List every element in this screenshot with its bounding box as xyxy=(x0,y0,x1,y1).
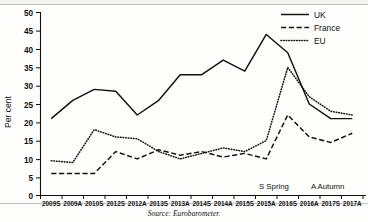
x-tick-label: 2010S xyxy=(85,200,104,207)
y-tick-label: 5 xyxy=(28,174,33,183)
x-tick-label: 2015S xyxy=(236,200,255,207)
line-chart-svg: Per cent 50 45 40 35 30 25 20 15 xyxy=(0,0,368,222)
data-series-group xyxy=(51,34,352,173)
x-tick-label: 2015A xyxy=(257,200,276,207)
x-axis-tick-labels: 2009S2009A2010S2012S2012A2013S2013A2014S… xyxy=(42,200,362,207)
x-tick-label: 2013A xyxy=(171,200,190,207)
x-tick-label: 2012A xyxy=(128,200,147,207)
legend-label-uk: UK xyxy=(314,10,326,20)
top-band xyxy=(0,0,368,4)
series-line-eu xyxy=(51,67,352,162)
x-tick-label: 2016S xyxy=(279,200,298,207)
y-tick-label: 15 xyxy=(24,137,34,146)
y-axis-title: Per cent xyxy=(3,95,13,128)
y-tick-label: 0 xyxy=(28,192,33,201)
source-caption: Source: Eurobarometer. xyxy=(148,209,221,218)
x-tick-label: 2014S xyxy=(193,200,212,207)
y-tick-label: 20 xyxy=(24,119,34,128)
x-tick-label: 2016A xyxy=(300,200,319,207)
legend-label-france: France xyxy=(314,23,340,33)
series-line-uk xyxy=(51,34,352,118)
y-tick-label: 40 xyxy=(24,46,34,55)
chart-figure: Per cent 50 45 40 35 30 25 20 15 xyxy=(0,0,368,222)
x-tick-label: 2013S xyxy=(150,200,169,207)
y-axis-ticks xyxy=(36,13,41,196)
season-key-note: S Spring A Autumn xyxy=(259,182,344,191)
chart-legend: UK France EU xyxy=(281,10,340,46)
y-tick-label: 30 xyxy=(24,82,34,91)
x-tick-label: 2012S xyxy=(107,200,126,207)
y-tick-label: 10 xyxy=(24,156,34,165)
series-line-france xyxy=(51,115,352,174)
x-tick-label: 2017A xyxy=(343,200,362,207)
y-tick-label: 35 xyxy=(24,64,34,73)
legend-label-eu: EU xyxy=(314,36,326,46)
x-tick-label: 2009S xyxy=(42,200,61,207)
y-tick-label: 25 xyxy=(24,101,34,110)
y-tick-label: 50 xyxy=(24,9,34,18)
x-tick-label: 2014A xyxy=(214,200,233,207)
y-axis-tick-labels: 50 45 40 35 30 25 20 15 10 5 0 xyxy=(24,9,34,201)
y-tick-label: 45 xyxy=(24,27,34,36)
season-key-spring: S Spring xyxy=(259,182,289,191)
x-tick-label: 2009A xyxy=(63,200,82,207)
season-key-autumn: A Autumn xyxy=(311,182,344,191)
x-tick-label: 2017S xyxy=(322,200,341,207)
